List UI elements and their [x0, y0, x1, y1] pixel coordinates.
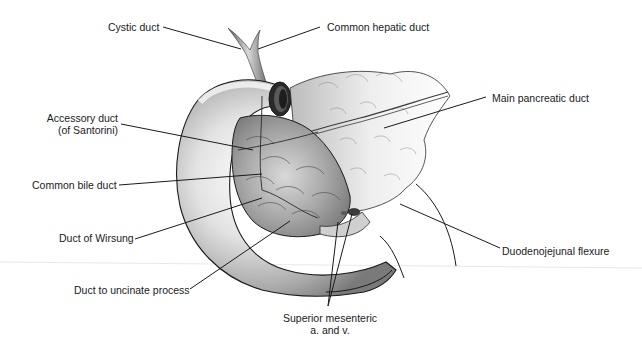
leader-duodenojejunal: [400, 204, 500, 248]
label-superior-mesenteric: Superior mesenteric a. and v.: [272, 312, 388, 336]
label-common-hepatic-duct: Common hepatic duct: [327, 21, 429, 33]
label-common-bile-duct: Common bile duct: [32, 179, 117, 191]
label-duct-of-wirsung: Duct of Wirsung: [59, 232, 134, 244]
label-accessory-duct-line2: (of Santorini): [30, 124, 118, 136]
label-duct-to-uncinate: Duct to uncinate process: [74, 284, 190, 296]
label-accessory-duct-line1: Accessory duct: [30, 112, 118, 124]
label-superior-mesenteric-line2: a. and v.: [272, 324, 388, 336]
scan-line: [0, 262, 642, 268]
label-main-pancreatic-duct: Main pancreatic duct: [492, 92, 589, 104]
biliary-ducts: [228, 28, 268, 88]
leader-cystic-duct: [163, 27, 241, 49]
label-cystic-duct: Cystic duct: [108, 21, 159, 33]
label-accessory-duct: Accessory duct (of Santorini): [30, 112, 118, 136]
label-duodenojejunal-flexure: Duodenojejunal flexure: [502, 245, 609, 257]
label-superior-mesenteric-line1: Superior mesenteric: [272, 312, 388, 324]
leader-common-hepatic-duct: [258, 27, 320, 49]
